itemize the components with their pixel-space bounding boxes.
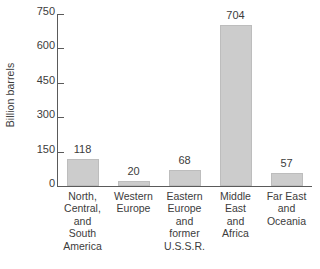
x-category-label-line: East	[210, 202, 262, 214]
x-category-label-line: Eastern	[159, 190, 211, 202]
x-category-label-line: America	[57, 240, 109, 252]
x-category-label-line: and	[159, 215, 211, 227]
x-category-label-line: and	[57, 215, 109, 227]
y-tick: 750	[1, 14, 64, 15]
x-axis-category-labels: North,Central,andSouthAmericaWesternEuro…	[57, 190, 312, 268]
bar	[169, 170, 201, 186]
y-tick: 600	[1, 48, 64, 49]
y-tick-label: 150	[37, 144, 55, 155]
x-category-label: EasternEuropeandformerU.S.S.R.	[159, 190, 211, 252]
y-tick-label: 600	[37, 40, 55, 51]
x-category-label: WesternEurope	[108, 190, 160, 215]
y-axis-title: Billion barrels	[0, 0, 20, 190]
y-tick-mark	[58, 14, 64, 15]
x-category-label-line: former	[159, 227, 211, 239]
bar	[220, 25, 252, 186]
bar-value-label: 68	[162, 155, 208, 166]
bar-value-label: 118	[60, 144, 106, 155]
bar-value-label: 20	[111, 166, 157, 177]
y-tick-label: 300	[37, 109, 55, 120]
bar-value-label: 704	[213, 10, 259, 21]
bar	[118, 181, 150, 186]
x-category-label-line: North,	[57, 190, 109, 202]
x-category-label-line: South	[57, 227, 109, 239]
x-category-label-line: Far East	[261, 190, 313, 202]
y-tick-mark	[58, 48, 64, 49]
y-tick-mark	[58, 186, 64, 187]
y-tick-label: 0	[49, 178, 55, 189]
x-category-label: North,Central,andSouthAmerica	[57, 190, 109, 252]
x-category-label-line: Western	[108, 190, 160, 202]
y-tick-label: 750	[37, 6, 55, 17]
x-category-label-line: U.S.S.R.	[159, 240, 211, 252]
plot-area: 7506004503001500 118206870457	[57, 14, 312, 186]
x-category-label-line: Central,	[57, 202, 109, 214]
y-tick: 0	[1, 186, 64, 187]
x-axis-line	[57, 186, 312, 187]
y-tick: 150	[1, 152, 64, 153]
x-category-label-line: Europe	[108, 202, 160, 214]
bar-value-label: 57	[264, 158, 310, 169]
x-category-label-line: and	[261, 202, 313, 214]
bar	[271, 173, 303, 186]
bar	[67, 159, 99, 186]
x-category-label: Far EastandOceania	[261, 190, 313, 227]
y-tick: 450	[1, 83, 64, 84]
y-tick-label: 450	[37, 75, 55, 86]
y-axis-line	[57, 14, 58, 186]
x-category-label-line: Oceania	[261, 215, 313, 227]
x-category-label-line: Europe	[159, 202, 211, 214]
x-category-label-line: and	[210, 215, 262, 227]
x-category-label: MiddleEastandAfrica	[210, 190, 262, 240]
x-category-label-line: Africa	[210, 227, 262, 239]
y-tick-mark	[58, 117, 64, 118]
bar-chart: Billion barrels 7506004503001500 1182068…	[0, 0, 320, 269]
y-tick-mark	[58, 83, 64, 84]
x-category-label-line: Middle	[210, 190, 262, 202]
y-tick: 300	[1, 117, 64, 118]
